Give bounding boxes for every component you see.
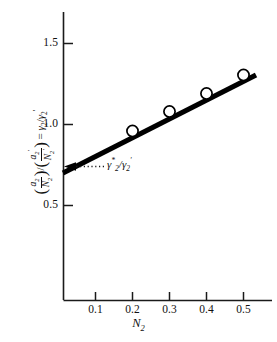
data-point <box>127 125 138 136</box>
x-axis-title: N2 <box>0 316 277 333</box>
frac1-den-symbol: N <box>41 181 51 187</box>
annotation-prime: ′ <box>130 156 132 165</box>
chart-figure: 1.5 1.0 0.5 0.1 0.2 0.3 0.4 0.5 N2 (a2N2… <box>0 0 277 342</box>
y-axis-title-slash-1: / <box>34 167 46 170</box>
y-axis-title-gamma-den-sub: 2 <box>40 111 49 115</box>
frac2-den-symbol: N <box>43 154 53 160</box>
y-axis-title-equals: = <box>34 133 46 139</box>
trend-line <box>63 75 256 173</box>
x-axis-title-symbol: N <box>132 316 140 330</box>
frac1-den-sub: 2 <box>46 178 53 181</box>
x-tick-label-0-1: 0.1 <box>79 303 112 315</box>
frac2-num-prime: ′ <box>26 150 33 151</box>
y-axis-ticks <box>64 44 74 206</box>
annotation-sub-2: 2 <box>126 164 130 173</box>
y-axis-title-gamma-num-sub: 2 <box>40 122 49 126</box>
y-axis-title-close-paren-1: ) <box>31 171 50 177</box>
data-point <box>201 88 212 99</box>
intercept-annotation-label: γ*2/γ2′ <box>107 156 132 173</box>
data-point <box>164 106 175 117</box>
frac2-num-symbol: a <box>28 155 38 160</box>
frac1-num-sub: 2 <box>33 179 40 182</box>
frac2-num-sub: 2 <box>33 152 40 155</box>
y-axis-title-gamma-den-prime: ′ <box>32 110 41 112</box>
frac2-den-prime: ′ <box>41 149 48 150</box>
x-tick-label-0-4: 0.4 <box>190 303 223 315</box>
y-axis-title-gamma-num: γ <box>34 126 46 130</box>
x-tick-label-0-3: 0.3 <box>153 303 186 315</box>
y-axis-title-gamma-den: γ <box>34 115 46 119</box>
data-point <box>238 69 249 80</box>
y-axis-title-fraction-2: a2′N2′ <box>27 148 55 161</box>
y-axis-title-slash-2: / <box>34 119 46 122</box>
data-point-markers <box>127 69 249 136</box>
y-axis-title-fraction-1: a2N2 <box>29 177 53 189</box>
y-tick-label-1-5: 1.5 <box>30 36 58 48</box>
frac1-num-symbol: a <box>28 182 38 187</box>
y-axis-title-close-paren-2: ) <box>31 142 50 148</box>
y-axis-title: (a2N2)/(a2′N2′) = γ2/γ2′ <box>27 52 47 252</box>
y-axis-title-open-paren-1: ( <box>31 189 50 195</box>
y-axis-title-open-paren-2: ( <box>31 162 50 168</box>
x-tick-label-0-2: 0.2 <box>116 303 149 315</box>
x-axis-ticks <box>96 292 244 300</box>
x-tick-label-0-5: 0.5 <box>227 303 260 315</box>
frac2-den-sub: 2 <box>48 151 55 154</box>
x-axis-title-subscript: 2 <box>141 323 145 333</box>
